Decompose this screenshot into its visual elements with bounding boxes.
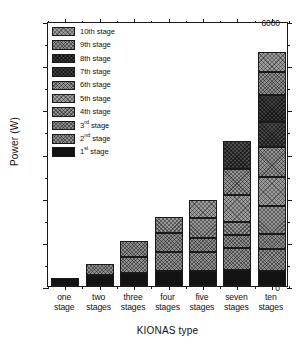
bar-segment-6th-stage <box>223 169 251 195</box>
x-category-label-line: stages <box>247 302 295 312</box>
bar-segment-3rd-stage <box>120 241 148 256</box>
x-category-label: tenstages <box>247 292 295 313</box>
y-tick-minor-right <box>287 222 290 223</box>
legend-swatch <box>52 94 75 104</box>
bar-segment-7th-stage <box>258 122 286 147</box>
x-tick-major-top <box>203 19 204 23</box>
x-tick-minor <box>48 286 49 289</box>
y-tick-major <box>43 156 48 157</box>
legend-label: 6th stage <box>80 81 111 89</box>
legend-entry: 10th stage <box>52 25 115 38</box>
legend-label-ordinal: nd <box>84 132 90 138</box>
bar-four-stages <box>155 217 183 286</box>
x-tick-minor-top <box>117 21 118 24</box>
y-tick-major-right <box>287 23 292 24</box>
y-tick-major <box>43 67 48 68</box>
y-tick-minor-right <box>287 266 290 267</box>
x-tick-major <box>169 286 170 290</box>
bar-segment-4th-stage <box>258 206 286 234</box>
bar-segment-3rd-stage <box>223 235 251 248</box>
x-tick-minor <box>186 286 187 289</box>
x-tick-minor-top <box>220 21 221 24</box>
y-tick-minor-right <box>287 89 290 90</box>
x-tick-minor-top <box>48 21 49 24</box>
legend-swatch <box>52 40 75 50</box>
legend-label: 5th stage <box>80 95 111 103</box>
bar-segment-1st-stage <box>51 278 79 286</box>
x-tick-major <box>272 286 273 290</box>
x-tick-major-top <box>134 19 135 23</box>
x-tick-minor-top <box>151 21 152 24</box>
legend-label: 10th stage <box>80 28 115 36</box>
bar-segment-2nd-stage <box>120 257 148 273</box>
bar-segment-5th-stage <box>189 200 217 218</box>
x-axis-title: KIONAS type <box>47 325 288 336</box>
bar-segment-1st-stage <box>86 275 114 286</box>
bar-segment-3rd-stage <box>258 234 286 249</box>
legend-label: 9th stage <box>80 41 111 49</box>
y-tick-major <box>43 23 48 24</box>
legend-label-ordinal: st <box>84 146 88 152</box>
bar-segment-5th-stage <box>258 177 286 206</box>
x-tick-major <box>65 286 66 290</box>
x-tick-major-top <box>100 19 101 23</box>
legend-swatch <box>52 54 75 64</box>
legend-label: 8th stage <box>80 55 111 63</box>
bar-five-stages <box>189 200 217 286</box>
y-tick-major <box>43 200 48 201</box>
y-tick-minor <box>45 133 48 134</box>
legend-label: 7th stage <box>80 68 111 76</box>
bar-segment-1st-stage <box>120 273 148 286</box>
legend-label-ordinal: rd <box>84 119 89 125</box>
x-tick-major <box>237 286 238 290</box>
bar-segment-1st-stage <box>155 271 183 286</box>
y-tick-minor <box>45 45 48 46</box>
x-tick-minor <box>117 286 118 289</box>
bar-segment-4th-stage <box>189 218 217 238</box>
y-tick-minor <box>45 222 48 223</box>
x-tick-minor-top <box>186 21 187 24</box>
legend-entry: 5th stage <box>52 92 115 105</box>
x-tick-minor-top <box>255 21 256 24</box>
y-tick-major-right <box>287 156 292 157</box>
bar-segment-10th-stage <box>258 52 286 71</box>
legend-swatch <box>52 147 75 157</box>
legend-entry: 1st stage <box>52 146 115 159</box>
x-tick-minor-top <box>289 21 290 24</box>
bar-segment-1st-stage <box>189 271 217 286</box>
legend-entry: 3rd stage <box>52 119 115 132</box>
bar-segment-7th-stage <box>223 141 251 170</box>
power-vs-kionas-type-chart: Power (W) 0100020003000400050006000 10th… <box>0 0 302 349</box>
y-tick-minor <box>45 178 48 179</box>
bar-segment-3rd-stage <box>189 238 217 252</box>
x-tick-major-top <box>65 19 66 23</box>
x-tick-minor <box>220 286 221 289</box>
y-tick-major <box>43 111 48 112</box>
bar-one-stage <box>51 278 79 286</box>
bar-ten-stages <box>258 53 286 286</box>
y-axis-title: Power (W) <box>9 82 20 202</box>
x-tick-minor-top <box>82 21 83 24</box>
x-category-label-line: ten <box>247 292 295 302</box>
legend-entry: 4th stage <box>52 105 115 118</box>
x-tick-major-top <box>169 19 170 23</box>
bar-segment-4th-stage <box>155 217 183 233</box>
x-tick-major <box>100 286 101 290</box>
legend-swatch <box>52 134 75 144</box>
bar-segment-1st-stage <box>223 270 251 286</box>
legend-swatch <box>52 121 75 131</box>
y-tick-minor-right <box>287 133 290 134</box>
legend-entry: 9th stage <box>52 38 115 51</box>
y-tick-major-right <box>287 111 292 112</box>
legend-label: 4th stage <box>80 108 111 116</box>
y-tick-minor <box>45 266 48 267</box>
bar-segment-2nd-stage <box>155 252 183 271</box>
x-tick-minor <box>289 286 290 289</box>
x-tick-minor <box>82 286 83 289</box>
bar-segment-1st-stage <box>258 271 286 286</box>
bar-segment-9th-stage <box>258 72 286 95</box>
legend-entry: 6th stage <box>52 79 115 92</box>
legend-entry: 7th stage <box>52 65 115 78</box>
x-tick-minor <box>151 286 152 289</box>
legend-entry: 2nd stage <box>52 132 115 145</box>
